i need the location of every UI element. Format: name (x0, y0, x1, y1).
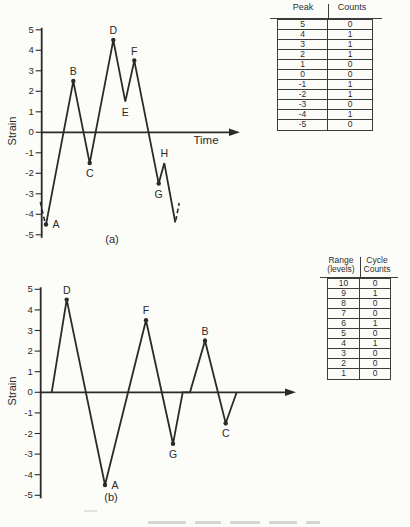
y-tick-label: -5 (25, 229, 33, 240)
data-point-G (157, 181, 161, 185)
table-cell: 4 (328, 339, 360, 348)
table-row: 50 (278, 20, 372, 30)
table-cell: -4 (278, 110, 328, 119)
table-cell: 4 (278, 30, 328, 39)
point-label-A: A (112, 479, 119, 491)
data-point-B (203, 339, 207, 343)
y-axis-label: Strain (6, 377, 18, 406)
table-cell: 9 (328, 289, 360, 298)
table-cell: 6 (328, 319, 360, 328)
table-header-divider (360, 257, 361, 278)
table-cell: 0 (360, 299, 390, 308)
x-axis-label: Time (193, 134, 218, 146)
table-cell: -3 (278, 100, 328, 109)
point-label-A: A (53, 218, 60, 230)
data-point-A (44, 222, 48, 226)
table-row: 100 (328, 279, 390, 289)
y-tick-label: 1 (28, 106, 33, 117)
point-label-G: G (155, 188, 163, 200)
table-cell: 1 (328, 369, 360, 379)
table-cell: 0 (360, 349, 390, 358)
table-cell: 0 (360, 369, 390, 379)
table-cell: 1 (328, 80, 372, 89)
table-cell: 3 (278, 40, 328, 49)
table-cell: 0 (328, 70, 372, 79)
table-row: 41 (328, 339, 390, 349)
table-cell: 0 (328, 20, 372, 29)
table-cell: 1 (328, 90, 372, 99)
table-cell: 0 (360, 279, 390, 288)
point-label-E: E (122, 106, 129, 118)
point-label-F: F (143, 304, 149, 316)
table-row: 20 (328, 359, 390, 369)
data-point-A (103, 483, 107, 487)
table-cell: 0 (278, 70, 328, 79)
y-tick-label: 2 (27, 345, 32, 356)
table-row: -21 (278, 90, 372, 100)
figure-page: 543210-1-2-3-4-5TimeStrainABCDEFGH(a)543… (0, 0, 410, 527)
table-row: -41 (278, 110, 372, 120)
table-cell: 0 (360, 359, 390, 368)
y-tick-label: 0 (28, 126, 33, 137)
table-cell: 0 (360, 309, 390, 318)
point-label-B: B (201, 325, 208, 337)
table-cell: 1 (328, 110, 372, 119)
data-point-F (144, 318, 148, 322)
dashed-continuation (176, 203, 179, 220)
point-label-C: C (222, 427, 230, 439)
table-cell: 10 (328, 279, 360, 288)
data-point-D (65, 297, 69, 301)
point-label-C: C (86, 167, 94, 179)
table-cell: 0 (360, 329, 390, 338)
y-tick-label: 4 (27, 304, 32, 315)
y-tick-label: -2 (25, 167, 33, 178)
table-cell: -1 (278, 80, 328, 89)
cycle-column-header-line2: Counts (358, 265, 396, 274)
table-row: -11 (278, 80, 372, 90)
table-header-divider (328, 4, 329, 19)
table-cell: 1 (328, 30, 372, 39)
table-row: -50 (278, 120, 372, 130)
y-tick-label: -3 (24, 448, 32, 459)
counts-column-header: Counts (328, 3, 376, 12)
peak-counts-rows: 504131211000-11-21-30-41-50 (277, 19, 373, 131)
y-tick-label: -1 (25, 147, 33, 158)
y-tick-label: -1 (24, 407, 32, 418)
table-cell: 0 (328, 120, 372, 130)
table-row: 00 (278, 70, 372, 80)
table-row: 30 (328, 349, 390, 359)
y-tick-label: 0 (27, 386, 32, 397)
table-cell: 1 (328, 50, 372, 59)
table-row: 70 (328, 309, 390, 319)
table-row: 50 (328, 329, 390, 339)
table-row: 91 (328, 289, 390, 299)
table-row: 21 (278, 50, 372, 60)
point-label-D: D (110, 24, 118, 36)
table-cell: 0 (328, 100, 372, 109)
table-row: 41 (278, 30, 372, 40)
table-cell: 1 (360, 319, 390, 328)
table-cell: 1 (278, 60, 328, 69)
table-cell: 0 (328, 60, 372, 69)
cut-off-caption-fragment (148, 521, 320, 524)
point-label-F: F (131, 45, 137, 57)
peak-counts-table: Peak Counts 504131211000-11-21-30-41-50 (270, 3, 382, 133)
point-label-D: D (63, 284, 71, 296)
panel-label-b: (b) (104, 491, 117, 503)
table-row: 80 (328, 299, 390, 309)
data-point-B (71, 79, 75, 83)
data-point-C (224, 421, 228, 425)
table-cell: 1 (360, 339, 390, 348)
table-row: 31 (278, 40, 372, 50)
data-point-C (88, 161, 92, 165)
y-tick-label: 3 (28, 65, 33, 76)
table-row: 10 (328, 369, 390, 379)
y-tick-label: -4 (25, 208, 33, 219)
y-tick-label: 4 (28, 44, 33, 55)
point-label-H: H (161, 147, 169, 159)
table-row: -30 (278, 100, 372, 110)
table-cell: -2 (278, 90, 328, 99)
y-tick-label: 5 (27, 283, 32, 294)
data-point-G (171, 442, 175, 446)
table-cell: 2 (278, 50, 328, 59)
